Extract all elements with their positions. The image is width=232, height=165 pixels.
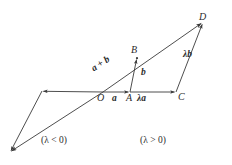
condition-label-lambda-negative: (λ < 0) bbox=[41, 136, 67, 146]
baseline-left-of-origin bbox=[43, 91, 103, 92]
point-label-C: C bbox=[178, 92, 185, 102]
diagram-canvas bbox=[0, 0, 232, 165]
point-label-D: D bbox=[199, 12, 206, 22]
vector-label-lambda-a: λa bbox=[137, 94, 146, 104]
point-marker-B bbox=[136, 57, 138, 59]
condition-label-lambda-positive: (λ > 0) bbox=[140, 136, 166, 146]
point-label-O: O bbox=[97, 93, 104, 103]
vector-label-lambda-b: λb bbox=[183, 50, 192, 60]
point-label-B: B bbox=[131, 45, 137, 55]
vector-b-segment bbox=[130, 60, 137, 92]
vector-label-b: b bbox=[141, 68, 146, 78]
point-label-A: A bbox=[126, 93, 132, 103]
vector-diagram-figure: D B C O A a + b b a λa λb (λ < 0) (λ > 0… bbox=[0, 0, 232, 165]
vector-label-a: a bbox=[112, 94, 117, 104]
